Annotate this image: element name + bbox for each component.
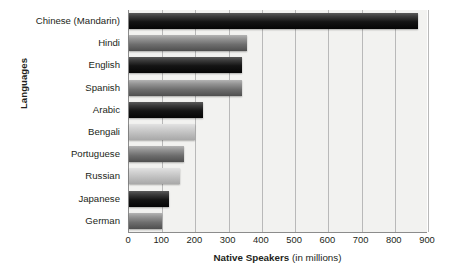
x-axis-title-weak: (in millions) — [292, 252, 342, 263]
x-tick-label: 100 — [153, 234, 169, 245]
bar-band — [129, 143, 428, 165]
bar[interactable] — [129, 80, 242, 96]
x-axis-line — [128, 232, 427, 233]
category-label: Chinese (Mandarin) — [36, 10, 120, 32]
bar-chart: Languages Chinese (Mandarin)HindiEnglish… — [0, 0, 456, 274]
category-label: Spanish — [85, 77, 120, 99]
bar-band — [129, 54, 428, 76]
bar-band — [129, 188, 428, 210]
x-tick-label: 300 — [220, 234, 236, 245]
bar[interactable] — [129, 146, 184, 162]
category-label: Russian — [85, 165, 120, 187]
bar-band — [129, 32, 428, 54]
bar-band — [129, 165, 428, 187]
category-label: Bengali — [88, 121, 120, 143]
category-label: Portuguese — [71, 143, 120, 165]
bar[interactable] — [129, 35, 247, 51]
plot-area — [128, 10, 427, 232]
gridline — [428, 10, 429, 232]
x-tick-label: 700 — [353, 234, 369, 245]
x-tick-label: 0 — [125, 234, 130, 245]
bar[interactable] — [129, 213, 162, 229]
bar-band — [129, 121, 428, 143]
x-tick-label: 800 — [386, 234, 402, 245]
x-tick-label: 900 — [419, 234, 435, 245]
x-axis-title: Native Speakers (in millions) — [128, 252, 427, 263]
bar[interactable] — [129, 168, 180, 184]
bar-band — [129, 99, 428, 121]
x-axis-tick-labels: 0100200300400500600700800900 — [128, 234, 427, 250]
bars-group — [129, 10, 427, 232]
bar-band — [129, 77, 428, 99]
category-label: Japanese — [78, 188, 120, 210]
x-tick-label: 500 — [286, 234, 302, 245]
category-label: Arabic — [93, 99, 120, 121]
bar-band — [129, 10, 428, 32]
x-tick-label: 600 — [320, 234, 336, 245]
category-label: English — [89, 54, 120, 76]
category-label: German — [85, 210, 120, 232]
x-tick-label: 400 — [253, 234, 269, 245]
x-axis-title-strong: Native Speakers — [214, 252, 290, 263]
bar[interactable] — [129, 191, 169, 207]
bar[interactable] — [129, 13, 418, 29]
category-axis-labels: Chinese (Mandarin)HindiEnglishSpanishAra… — [6, 10, 124, 232]
x-tick-label: 200 — [187, 234, 203, 245]
bar[interactable] — [129, 57, 242, 73]
bar-band — [129, 210, 428, 232]
bar[interactable] — [129, 124, 195, 140]
bar[interactable] — [129, 102, 203, 118]
category-label: Hindi — [98, 32, 120, 54]
